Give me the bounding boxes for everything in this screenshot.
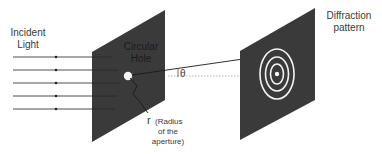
hole-label-line1: Circular [124,41,159,52]
diffraction-diagram: Incident Light Circular Hole r (Radius [0,0,382,154]
diffraction-pattern-label: Diffraction pattern [327,10,372,33]
radius-desc-line1: (Radius [155,117,183,126]
arrow-dot-icon [55,108,58,111]
pattern-label-line2: pattern [333,22,364,33]
incident-light-label: Incident Light [10,27,45,50]
incident-label-line1: Incident [10,27,45,38]
arrow-dot-icon [55,69,58,72]
incident-label-line2: Light [17,39,39,50]
radius-label: r (Radius of the aperture) [147,114,185,146]
radius-desc-line2: of the [158,127,179,136]
central-bright-spot [275,72,279,76]
radius-symbol: r [147,114,151,126]
angle-marker: θ [178,68,186,79]
pattern-label-line1: Diffraction [327,10,372,21]
hole-label-line2: Hole [131,53,152,64]
arrow-dot-icon [55,56,58,59]
theta-label: θ [180,68,186,79]
ray-arrow-dots [55,56,58,111]
radius-desc-line3: aperture) [152,137,185,146]
arrow-dot-icon [55,82,58,85]
arrow-dot-icon [55,95,58,98]
incident-rays [13,57,92,109]
